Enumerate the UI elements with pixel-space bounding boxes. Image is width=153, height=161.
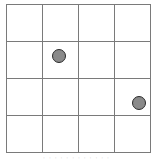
caption: · · · · · · · · · · · · [0, 154, 153, 161]
grid-board [6, 4, 151, 153]
grid-line [114, 4, 115, 153]
grid-line [78, 4, 79, 153]
grid-line [42, 4, 43, 153]
grid-line [150, 4, 151, 153]
grid-line [6, 4, 7, 153]
circle-piece [52, 49, 66, 63]
circle-piece [132, 96, 146, 110]
